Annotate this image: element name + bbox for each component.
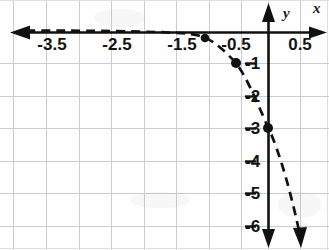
x-axis-label: x [313,1,321,16]
y-tick-label-neg2: -2 [245,88,260,105]
y-tick-label-neg6: -6 [245,218,260,235]
x-tick-label-neg0-5: -0.5 [207,36,265,53]
y-tick-label-neg3: -3 [245,120,260,137]
y-tick-label-neg5: -5 [245,185,260,202]
graph-figure: y x -3.5 -2.5 -1.5 -0.5 0.5 -1 -2 -3 -4 … [0,0,329,250]
x-tick-label-neg2-5: -2.5 [85,36,149,53]
y-axis-label: y [283,6,290,21]
x-tick-label-pos0-5: 0.5 [274,36,326,53]
plotted-point-3 [263,123,273,133]
x-tick-label-neg3-5: -3.5 [20,36,84,53]
x-tick-label-neg1-5: -1.5 [150,36,214,53]
plotted-point-2 [231,58,241,68]
y-tick-label-neg4: -4 [245,153,260,170]
y-tick-label-neg1: -1 [245,55,260,72]
